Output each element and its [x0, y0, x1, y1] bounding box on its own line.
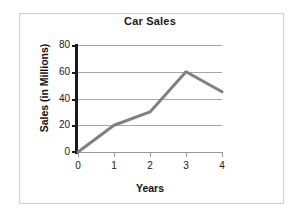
series-line-car-sales: [0, 0, 303, 224]
series-polyline: [78, 72, 222, 152]
chart-figure: Car Sales 80 60 40 20 0 0 1 2 3 4 Sales …: [0, 0, 303, 224]
